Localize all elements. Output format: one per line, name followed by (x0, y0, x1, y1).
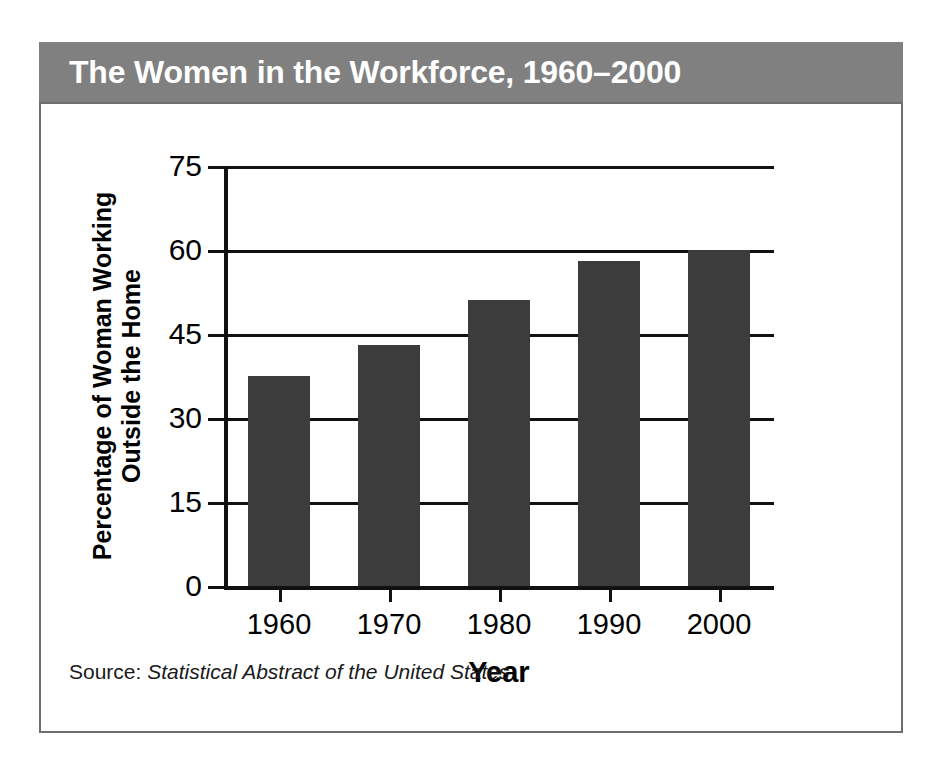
x-tick-label-2000: 2000 (687, 608, 752, 641)
x-tick-mark (609, 586, 612, 602)
plot-area: 01530456075 19601970198019902000 (224, 166, 774, 586)
y-tick-mark (208, 418, 224, 421)
y-tick-label: 0 (185, 569, 202, 603)
source-note: Source: Statistical Abstract of the Unit… (69, 660, 509, 684)
x-tick-label-1990: 1990 (577, 608, 642, 641)
y-tick-mark (208, 586, 224, 589)
y-tick-mark (208, 250, 224, 253)
y-axis-title-text: Percentage of Woman WorkingOutside the H… (88, 192, 146, 561)
x-tick-mark (389, 586, 392, 602)
source-title: Statistical Abstract of the United State… (147, 660, 509, 683)
y-tick-label: 45 (169, 317, 202, 351)
chart-title-band: The Women in the Workforce, 1960–2000 (39, 42, 903, 102)
chart-figure: The Women in the Workforce, 1960–2000 Pe… (39, 42, 903, 733)
x-tick-mark (279, 586, 282, 602)
y-tick-label: 75 (169, 149, 202, 183)
y-tick-label: 60 (169, 233, 202, 267)
source-label: Source: (69, 660, 141, 683)
chart-panel: Percentage of Woman WorkingOutside the H… (39, 102, 903, 733)
y-tick-mark (208, 166, 224, 169)
x-tick-mark (499, 586, 502, 602)
plot-wrapper: Percentage of Woman WorkingOutside the H… (41, 104, 901, 731)
bar-1970 (358, 345, 420, 586)
y-axis-title: Percentage of Woman WorkingOutside the H… (79, 166, 155, 586)
x-tick-label-1970: 1970 (357, 608, 422, 641)
x-tick-mark (719, 586, 722, 602)
x-tick-label-1980: 1980 (467, 608, 532, 641)
bar-1980 (468, 300, 530, 586)
bar-1960 (248, 376, 310, 586)
y-tick-mark (208, 502, 224, 505)
y-tick-label: 15 (169, 485, 202, 519)
gridline (224, 166, 774, 169)
bar-1990 (578, 261, 640, 586)
chart-title: The Women in the Workforce, 1960–2000 (69, 54, 681, 91)
x-tick-label-1960: 1960 (247, 608, 312, 641)
bar-2000 (688, 250, 750, 586)
y-axis-spine (224, 166, 228, 586)
y-tick-label: 30 (169, 401, 202, 435)
y-tick-mark (208, 334, 224, 337)
